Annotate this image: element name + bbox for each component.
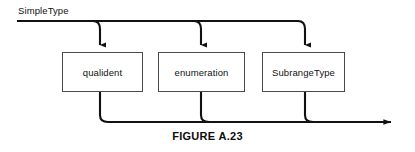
exit-from-enumeration (201, 92, 209, 122)
figure-container: SimpleType qualident enumeration Subrang… (0, 0, 415, 152)
branch-to-subrangetype (298, 21, 305, 45)
node-label-qualident: qualident (83, 67, 122, 78)
branch-to-enumeration (194, 21, 201, 45)
exit-from-qualident (100, 92, 391, 122)
exit-from-subrangetype (305, 92, 313, 122)
node-label-subrangetype: SubrangeType (272, 67, 335, 78)
node-label-enumeration: enumeration (175, 67, 229, 78)
figure-caption: FIGURE A.23 (0, 130, 415, 142)
node-box-enumeration[interactable]: enumeration (158, 52, 245, 92)
branch-to-qualident (93, 21, 100, 45)
node-box-qualident[interactable]: qualident (62, 52, 143, 92)
entry-label-simpletype: SimpleType (18, 5, 69, 16)
node-box-subrangetype[interactable]: SubrangeType (262, 52, 345, 92)
